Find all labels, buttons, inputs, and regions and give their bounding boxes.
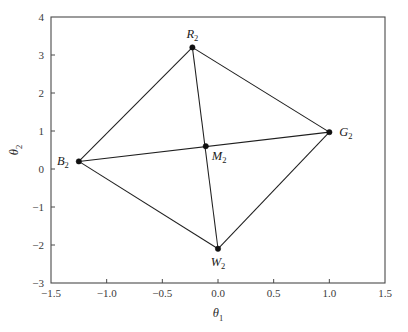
polygon-edge-line [79, 161, 218, 248]
x-tick-label: 1.0 [322, 287, 336, 299]
x-tick-label: 0.5 [267, 287, 281, 299]
y-tick-label: −3 [32, 277, 44, 289]
y-tick-label: −2 [32, 239, 44, 251]
polygon-edge-line [79, 47, 193, 161]
y-tick-label: 0 [39, 163, 45, 175]
y-tick-label: 1 [39, 125, 45, 137]
x-tick-label: −0.5 [152, 287, 172, 299]
data-point-marker [203, 144, 208, 149]
scatter-plot-canvas: −1.5−1.0−0.50.00.51.01.5 −3−2−101234 B2R… [0, 0, 408, 332]
y-tick-label: 2 [39, 87, 45, 99]
data-point-marker [76, 159, 81, 164]
x-axis-tick-labels: −1.5−1.0−0.50.00.51.01.5 [41, 287, 392, 299]
y-axis-ticks [51, 55, 55, 245]
polygon-edge-line [192, 47, 329, 132]
data-point-labels: B2R2G2W2M2 [57, 27, 353, 270]
polygon-edge-line [218, 132, 329, 249]
x-axis-ticks [107, 279, 330, 283]
data-point-marker [215, 246, 220, 251]
data-point-marker [190, 45, 195, 50]
y-tick-label: 4 [39, 11, 45, 23]
data-point-label-m2: M2 [211, 149, 227, 165]
data-point-label-b2: B2 [57, 154, 69, 170]
data-point-markers [76, 45, 332, 252]
data-point-label-g2: G2 [339, 125, 352, 141]
data-point-label-r2: R2 [185, 27, 198, 43]
y-tick-label: −1 [32, 201, 44, 213]
x-axis-title: θ1 [213, 306, 223, 323]
y-tick-label: 3 [39, 49, 45, 61]
x-tick-label: −1.0 [97, 287, 117, 299]
y-axis-title: θ2 [7, 145, 24, 155]
x-tick-label: 1.5 [378, 287, 392, 299]
x-tick-label: 0.0 [211, 287, 225, 299]
x-tick-label: −1.5 [41, 287, 61, 299]
y-axis-tick-labels: −3−2−101234 [32, 11, 44, 289]
data-point-label-w2: W2 [211, 255, 226, 271]
chart-figure: −1.5−1.0−0.50.00.51.01.5 −3−2−101234 B2R… [0, 0, 408, 332]
data-point-marker [327, 129, 332, 134]
